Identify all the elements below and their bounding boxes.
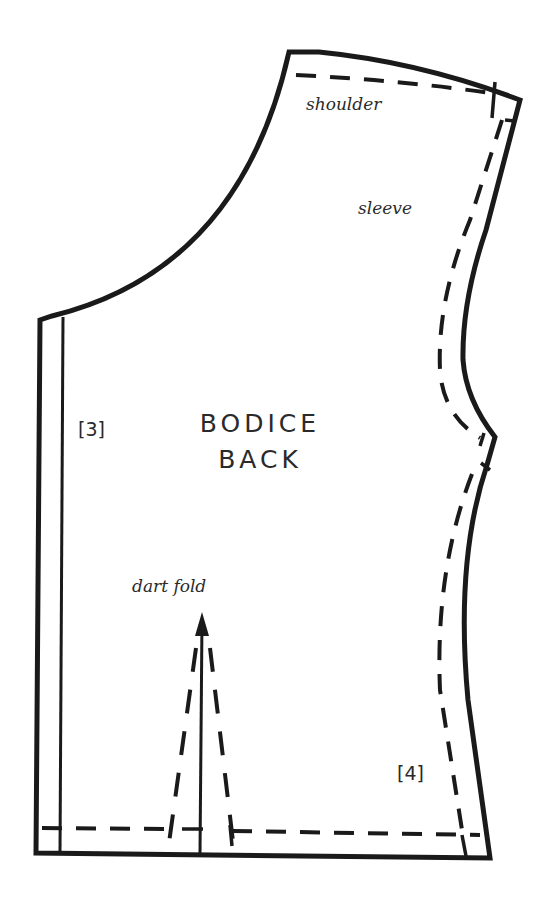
label-sleeve: sleeve [358, 198, 412, 218]
marker-3: [3] [78, 418, 105, 440]
seam-corner-tick [505, 120, 514, 121]
fold-line [60, 317, 63, 853]
seam-corner-tick [462, 835, 466, 856]
dart-leg-left [168, 648, 196, 850]
seam-line-hem [42, 828, 165, 829]
label-shoulder: shoulder [306, 94, 381, 114]
pattern-title: BODICE BACK [180, 406, 340, 478]
pattern-title-line1: BODICE [180, 406, 340, 442]
marker-4: [4] [397, 762, 424, 784]
seam-line-hem [232, 831, 480, 835]
dart-fold-line [200, 620, 202, 854]
label-dart-fold: dart fold [132, 576, 206, 596]
seam-corner-tick [492, 82, 495, 118]
arrow-up-icon [195, 612, 209, 636]
seam-corner-tick [480, 433, 484, 446]
dart-leg-right [210, 648, 234, 850]
pattern-title-line2: BACK [180, 442, 340, 478]
